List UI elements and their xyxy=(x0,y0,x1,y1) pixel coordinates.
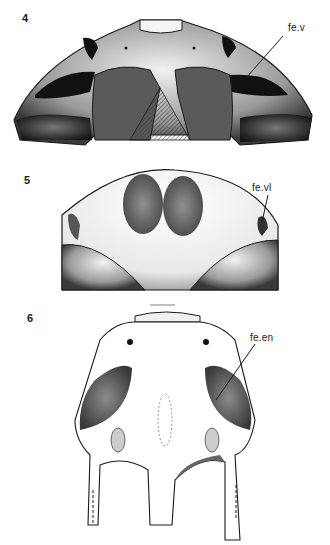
illustration-canvas xyxy=(0,0,330,545)
label-fe-en: fe.en xyxy=(250,332,273,343)
figure-number-4: 4 xyxy=(22,12,28,24)
figure-number-5: 5 xyxy=(24,174,30,186)
label-fe-vl: fe.vl xyxy=(252,182,271,193)
figure-4-skull-section xyxy=(14,20,312,145)
figure-5-skull-anterior xyxy=(62,170,278,305)
figure-6-skull-dorsal xyxy=(75,312,255,540)
figure-number-6: 6 xyxy=(27,312,33,324)
label-fe-v: fe.v xyxy=(288,22,305,33)
